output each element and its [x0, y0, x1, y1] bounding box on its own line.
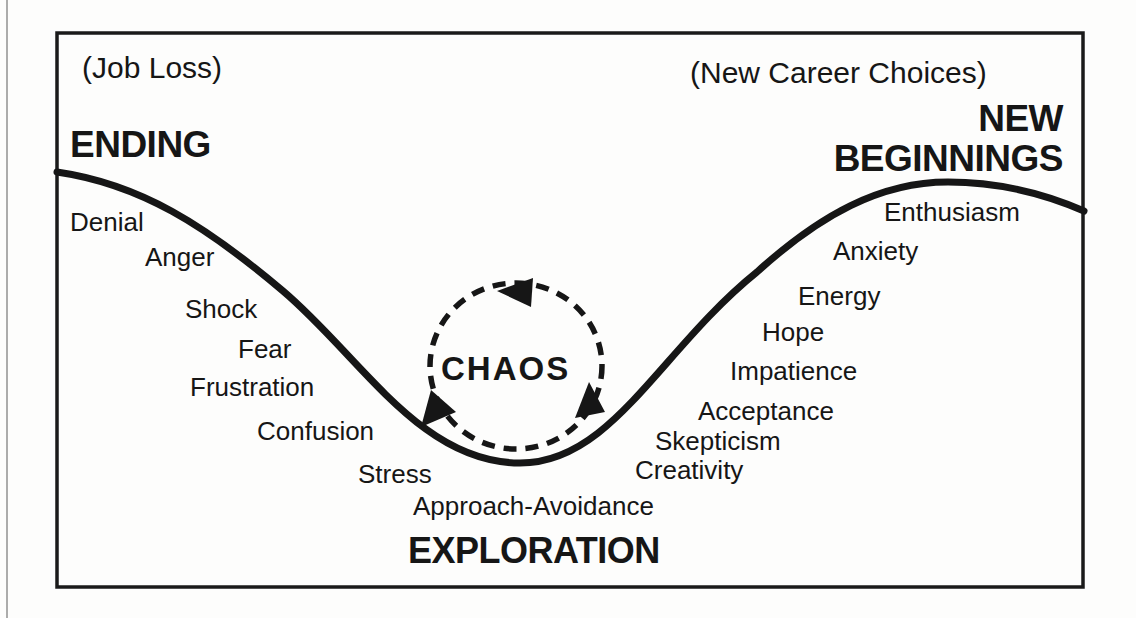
transition-diagram: (Job Loss) (New Career Choices) ENDING N… — [0, 0, 1136, 618]
emotion-label-anxiety: Anxiety — [833, 237, 918, 265]
phase-title-ending: ENDING — [70, 125, 211, 165]
phase-title-new-line1: NEW — [834, 99, 1063, 139]
context-label-new-career-choices: (New Career Choices) — [690, 57, 987, 89]
emotion-label-creativity: Creativity — [635, 456, 743, 484]
emotion-label-confusion: Confusion — [257, 417, 374, 445]
emotion-label-anger: Anger — [145, 243, 214, 271]
emotion-label-fear: Fear — [238, 335, 291, 363]
phase-title-new-beginnings: NEW BEGINNINGS — [834, 99, 1063, 179]
emotion-label-approach-avoidance: Approach-Avoidance — [413, 492, 654, 520]
emotion-label-acceptance: Acceptance — [698, 397, 834, 425]
cycle-arrowhead-right-icon — [575, 382, 605, 418]
emotion-label-frustration: Frustration — [190, 373, 314, 401]
chaos-label: CHAOS — [441, 351, 570, 387]
emotion-label-shock: Shock — [185, 295, 257, 323]
emotion-label-energy: Energy — [798, 282, 880, 310]
emotion-label-impatience: Impatience — [730, 357, 857, 385]
emotion-label-hope: Hope — [762, 318, 824, 346]
emotion-label-skepticism: Skepticism — [655, 427, 781, 455]
phase-title-beginnings-line2: BEGINNINGS — [834, 139, 1063, 179]
emotion-label-stress: Stress — [358, 460, 432, 488]
context-label-job-loss: (Job Loss) — [82, 52, 222, 84]
emotion-label-denial: Denial — [70, 208, 144, 236]
emotion-label-enthusiasm: Enthusiasm — [884, 198, 1020, 226]
phase-title-exploration: EXPLORATION — [408, 532, 660, 571]
diagram-drawing — [0, 0, 1136, 618]
